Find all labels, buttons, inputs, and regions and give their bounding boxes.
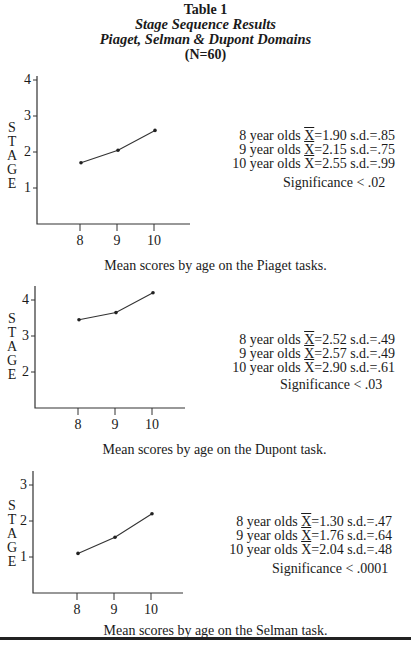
stat-row: 8 year olds X=1.30 s.d.=.47	[229, 515, 392, 529]
x-tick-label: 8	[74, 602, 81, 617]
panel-selman: 1238910 STAGE 8 year olds X=1.30 s.d.=.4…	[0, 0, 411, 646]
data-point	[113, 535, 117, 539]
x-tick-label: 9	[111, 602, 118, 617]
data-point	[150, 512, 154, 516]
y-axis-label: STAGE	[5, 499, 19, 569]
stat-row: 9 year olds X=1.76 s.d.=.64	[229, 529, 392, 543]
data-point	[76, 552, 80, 556]
significance: Significance < .0001	[272, 561, 388, 577]
y-tick-label: 1	[20, 549, 27, 564]
axes	[33, 471, 183, 593]
bottom-rule	[0, 637, 411, 640]
data-line	[78, 514, 152, 554]
stat-row: 10 year olds X=2.04 s.d.=.48	[229, 543, 392, 557]
y-tick-label: 2	[20, 513, 27, 528]
x-tick-label: 10	[144, 602, 158, 617]
y-tick-label: 3	[20, 477, 27, 492]
stats-block: 8 year olds X=1.30 s.d.=.47 9 year olds …	[229, 515, 392, 557]
